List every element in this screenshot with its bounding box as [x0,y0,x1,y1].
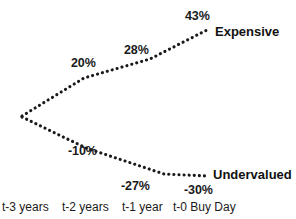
valuation-divergence-chart: 43% 28% 20% Expensive -10% -27% -30% Und… [0,0,296,219]
data-label-upper-28: 28% [124,44,149,57]
series-label-expensive: Expensive [215,25,279,38]
x-axis-tick-t-minus-1-year: t-1 year [122,201,163,213]
x-axis-labels: t-3 years t-2 years t-1 year t-0 Buy Day [0,201,296,219]
x-axis-tick-t-minus-2-years: t-2 years [62,201,109,213]
x-axis-tick-t-0-buy-day: t-0 Buy Day [173,201,236,213]
x-axis-tick-t-minus-3-years: t-3 years [2,201,49,213]
data-label-upper-20: 20% [71,57,96,70]
data-label-upper-43: 43% [185,10,210,23]
series-label-undervalued: Undervalued [213,168,292,181]
data-label-lower-minus10: -10% [68,145,97,158]
undervalued-series-line [22,117,207,176]
data-label-lower-minus30: -30% [184,184,213,197]
expensive-series-line [22,30,207,116]
data-label-lower-minus27: -27% [121,180,150,193]
